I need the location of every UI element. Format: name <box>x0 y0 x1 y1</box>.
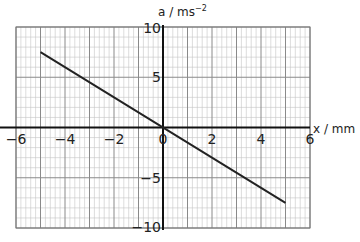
x-tick-label: −4 <box>55 131 76 147</box>
y-axis-label: a / ms−2 <box>158 4 207 19</box>
y-axis-label-superscript: −2 <box>195 4 207 13</box>
x-tick-label: −2 <box>104 131 125 147</box>
x-tick-labels: −6−4−20246 <box>6 131 315 147</box>
x-tick-label: 4 <box>257 131 266 147</box>
acceleration-displacement-chart: −6−4−20246 105−5−10 x / mm a / ms−2 <box>0 0 360 242</box>
y-axis-label-main: a / ms <box>158 5 195 19</box>
x-tick-label: 0 <box>159 131 168 147</box>
x-tick-label: −6 <box>6 131 27 147</box>
x-axis-label: x / mm <box>313 122 355 136</box>
y-tick-label: 10 <box>143 20 161 36</box>
x-tick-label: 2 <box>208 131 217 147</box>
y-tick-label: 5 <box>152 69 161 85</box>
y-tick-label: −10 <box>131 219 161 235</box>
y-tick-label: −5 <box>140 170 161 186</box>
